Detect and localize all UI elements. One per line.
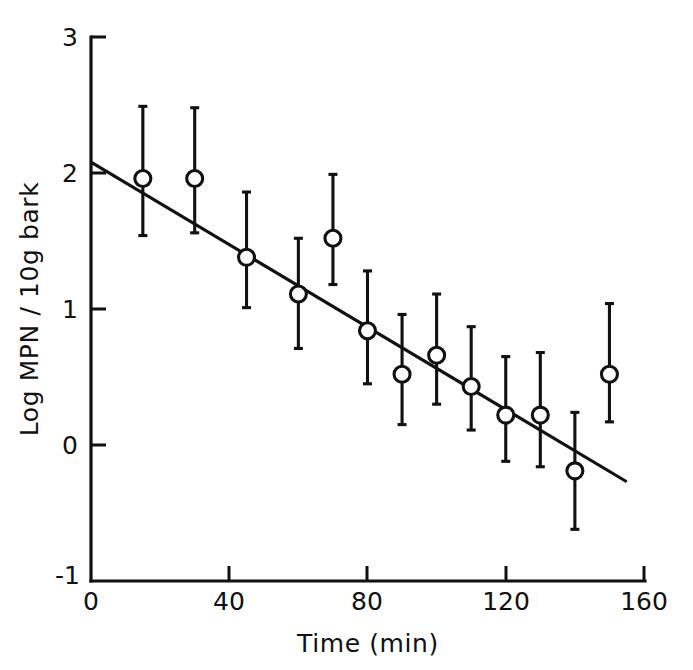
- data-point-group: [601, 304, 617, 422]
- y-tick-label-0: 0: [62, 431, 78, 460]
- data-point-marker: [498, 407, 514, 423]
- y-tick-label-minus1: -1: [55, 561, 80, 590]
- data-point-group: [463, 327, 479, 430]
- data-point-group: [532, 353, 548, 467]
- x-tick-label-80: 80: [351, 587, 383, 616]
- x-axis-title: Time (min): [296, 629, 439, 658]
- data-point-marker: [325, 230, 341, 246]
- data-point-group: [429, 294, 445, 404]
- data-point-group: [290, 238, 306, 348]
- data-points-layer: [135, 106, 618, 529]
- data-point-marker: [532, 407, 548, 423]
- data-point-group: [135, 106, 151, 235]
- y-axis-ticks: [91, 37, 106, 445]
- y-tick-label-2: 2: [62, 159, 78, 188]
- y-tick-label-1: 1: [62, 295, 78, 324]
- data-point-marker: [601, 366, 617, 382]
- y-axis-title: Log MPN / 10g bark: [15, 182, 44, 437]
- data-point-group: [360, 271, 376, 384]
- chart-plot: 3 2 1 0 -1 0 40 80 120 160 Time (min) Lo…: [0, 0, 693, 670]
- data-point-group: [498, 357, 514, 462]
- regression-fit-line: [91, 162, 627, 482]
- data-point-marker: [290, 286, 306, 302]
- data-point-group: [567, 412, 583, 529]
- data-point-marker: [187, 170, 203, 186]
- x-tick-label-160: 160: [620, 587, 668, 616]
- figure-container: 3 2 1 0 -1 0 40 80 120 160 Time (min) Lo…: [0, 0, 693, 670]
- x-tick-label-0: 0: [83, 587, 99, 616]
- data-point-marker: [360, 323, 376, 339]
- data-point-marker: [239, 249, 255, 265]
- data-point-group: [239, 192, 255, 308]
- data-point-marker: [394, 366, 410, 382]
- data-point-group: [394, 314, 410, 424]
- y-tick-label-3: 3: [62, 23, 78, 52]
- x-axis-ticks: [229, 566, 644, 581]
- y-tick-labels: 3 2 1 0 -1: [55, 23, 80, 590]
- x-tick-label-40: 40: [213, 587, 245, 616]
- data-point-marker: [567, 463, 583, 479]
- data-point-marker: [135, 170, 151, 186]
- data-point-group: [187, 108, 203, 233]
- x-tick-labels: 0 40 80 120 160: [83, 587, 668, 616]
- x-tick-label-120: 120: [482, 587, 530, 616]
- data-point-group: [325, 174, 341, 284]
- data-point-marker: [429, 347, 445, 363]
- data-point-marker: [463, 379, 479, 395]
